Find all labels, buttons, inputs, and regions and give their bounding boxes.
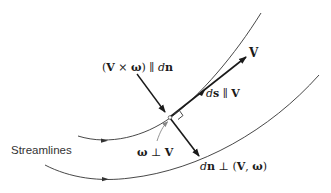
parallel-symbol: ∥ [219,87,231,100]
lower-streamline-arrow-icon [102,177,109,181]
v-symbol: V [106,61,115,74]
omega-symbol: ω [131,61,141,74]
streamlines-text: Streamlines [11,144,72,156]
times-symbol: × [115,61,131,74]
v-symbol: V [249,46,258,60]
upper-streamline [78,13,261,140]
perp-symbol: ⊥ [215,160,232,173]
v-symbol: V [237,160,246,173]
n-symbol: n [165,61,173,74]
v-symbol: V [165,146,174,159]
n-symbol: n [207,160,215,173]
cross-product-arrow [137,74,165,112]
diagram-canvas [0,0,331,193]
dn-vector-arrow [170,118,199,156]
d-symbol: d [200,160,207,173]
omega-symbol: ω [252,160,262,173]
parallel-symbol: ∥ [146,61,158,74]
omega-perp-v-label: ω ⊥ V [137,147,173,158]
cross-product-label: (V × ω) ∥ dn [102,62,173,73]
perp-symbol: ⊥ [147,146,164,159]
velocity-label: V [249,47,258,59]
streamlines-label: Streamlines [11,145,72,157]
paren-close: ) [263,160,267,173]
ds-parallel-label: ds ∥ V [206,88,240,99]
vorticity-point-icon [168,116,172,120]
lower-streamline [45,75,319,179]
v-symbol: V [231,87,240,100]
d-symbol: d [158,61,165,74]
upper-streamline-arrow-icon [101,139,108,143]
dn-perp-label: dn ⊥ (V, ω) [200,161,267,172]
omega-symbol: ω [137,146,147,159]
d-symbol: d [206,87,213,100]
